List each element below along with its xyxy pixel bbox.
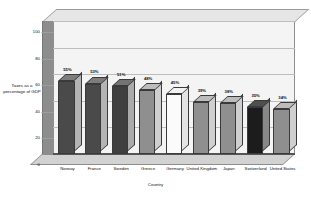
bar-group: 51% — [112, 21, 128, 154]
bar-group: 45% — [166, 21, 182, 154]
bar-side-face — [209, 93, 216, 151]
bar-group: 55% — [58, 21, 74, 154]
bar-value-label: 48% — [133, 77, 163, 81]
bar-value-label: 45% — [160, 81, 190, 85]
bar-value-label: 35% — [241, 94, 271, 98]
x-axis-tick-label: United States — [266, 166, 299, 171]
bar[interactable] — [247, 107, 263, 154]
bar-group: 53% — [85, 21, 101, 154]
y-axis-tick-label: 80 — [2, 57, 40, 61]
bar[interactable] — [85, 84, 101, 154]
bar-side-face — [155, 81, 162, 151]
bar-side-face — [236, 94, 243, 151]
y-axis-tick-label: 100 — [2, 30, 40, 34]
bar-side-face — [101, 74, 108, 151]
bar-group: 48% — [139, 21, 155, 154]
bar-group: 35% — [247, 21, 263, 154]
bar-value-label: 38% — [214, 90, 244, 94]
bar-group: 39% — [193, 21, 209, 154]
bar[interactable] — [112, 86, 128, 154]
bar-front-face — [112, 86, 128, 154]
bar-front-face — [220, 103, 236, 154]
bar-value-label: 34% — [267, 96, 297, 100]
bar-side-face — [128, 77, 135, 151]
bar-value-label: 53% — [79, 70, 109, 74]
bar-front-face — [193, 102, 209, 154]
chart-bars: 55%53%51%48%45%39%38%35%34% — [53, 21, 295, 154]
y-axis-tick-label: 0 — [2, 163, 40, 167]
bar-front-face — [58, 81, 74, 154]
bar[interactable] — [166, 94, 182, 154]
bar-front-face — [139, 90, 155, 154]
bar-side-face — [182, 85, 189, 151]
y-axis-title: Taxes as a percentage of GDP — [2, 83, 42, 95]
y-axis-tick-label: 40 — [2, 110, 40, 114]
bar-front-face — [166, 94, 182, 154]
chart-figure: 020406080100 Taxes as a percentage of GD… — [0, 0, 311, 198]
bar-group: 34% — [273, 21, 289, 154]
y-axis-tick-label: 20 — [2, 136, 40, 140]
bar-value-label: 55% — [52, 68, 82, 72]
bar[interactable] — [139, 90, 155, 154]
bar[interactable] — [193, 102, 209, 154]
bar[interactable] — [58, 81, 74, 154]
bar-side-face — [75, 72, 82, 151]
bar[interactable] — [273, 109, 289, 154]
bar-value-label: 51% — [106, 73, 136, 77]
bar[interactable] — [220, 103, 236, 154]
bar-value-label: 39% — [187, 89, 217, 93]
x-axis-title: Country — [0, 182, 311, 187]
bar-front-face — [273, 109, 289, 154]
bar-front-face — [247, 107, 263, 154]
bar-front-face — [85, 84, 101, 154]
bar-group: 38% — [220, 21, 236, 154]
